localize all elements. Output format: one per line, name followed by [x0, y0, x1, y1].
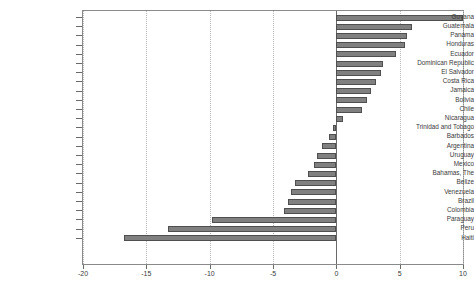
category-tick: [76, 91, 82, 92]
category-label: Belize: [396, 179, 474, 185]
category-tick: [76, 81, 82, 82]
category-label: Haiti: [396, 235, 474, 241]
bar-ecuador: [336, 51, 396, 57]
category-label: El Salvador: [396, 69, 474, 75]
category-label: Bahamas, The: [396, 170, 474, 176]
bar-haiti: [124, 235, 337, 241]
category-tick: [76, 183, 82, 184]
category-tick: [76, 155, 82, 156]
value-tick-label: -20: [78, 270, 88, 277]
bar-belize: [295, 180, 337, 186]
category-tick: [76, 146, 82, 147]
category-label: Ecuador: [396, 51, 474, 57]
category-tick: [76, 219, 82, 220]
category-label: Bolivia: [396, 97, 474, 103]
bar-jamaica: [336, 88, 370, 94]
category-label: Panama: [396, 32, 474, 38]
category-tick: [76, 17, 82, 18]
category-tick: [76, 45, 82, 46]
category-label: Costa Rica: [396, 78, 474, 84]
category-tick: [76, 173, 82, 174]
category-label: Chile: [396, 106, 474, 112]
bar-trinidad-and-tobago: [333, 125, 337, 131]
category-tick: [76, 109, 82, 110]
value-tick-label: -10: [205, 270, 215, 277]
bar-argentina: [322, 143, 336, 149]
category-label: Dominican Republic: [396, 60, 474, 66]
category-tick: [76, 192, 82, 193]
value-tick-mark: [83, 265, 84, 269]
category-label: Paraguay: [396, 216, 474, 222]
category-tick: [76, 201, 82, 202]
bar-venezuela: [291, 189, 337, 195]
category-label: Colombia: [396, 207, 474, 213]
category-label: Barbados: [396, 133, 474, 139]
value-tick-label: -15: [141, 270, 151, 277]
category-tick: [76, 137, 82, 138]
category-label: Guatemala: [396, 23, 474, 29]
category-label: Argentina: [396, 143, 474, 149]
category-label: Guyana: [396, 14, 474, 20]
bar-bahamas-the: [308, 171, 336, 177]
bar-brazil: [288, 199, 336, 205]
bar-colombia: [284, 208, 336, 214]
value-tick-mark: [146, 265, 147, 269]
category-tick: [76, 54, 82, 55]
category-label: Nicaragua: [396, 115, 474, 121]
value-tick-mark: [273, 265, 274, 269]
category-tick: [76, 238, 82, 239]
bar-el-salvador: [336, 70, 380, 76]
bar-paraguay: [212, 217, 336, 223]
value-tick-label: 5: [398, 270, 402, 277]
value-tick-label: 0: [334, 270, 338, 277]
category-tick: [76, 210, 82, 211]
horizontal-bar-chart: GuyanaGuatemalaPanamaHondurasEcuadorDomi…: [0, 0, 474, 299]
category-label: Venezuela: [396, 189, 474, 195]
value-tick-mark: [463, 265, 464, 269]
bar-barbados: [329, 134, 337, 140]
bar-costa-rica: [336, 79, 375, 85]
bar-dominican-republic: [336, 61, 383, 67]
category-label: Uruguay: [396, 152, 474, 158]
category-label: Mexico: [396, 161, 474, 167]
category-tick: [76, 127, 82, 128]
bar-chile: [336, 107, 361, 113]
category-label: Trinidad and Tobago: [396, 124, 474, 130]
category-label: Honduras: [396, 41, 474, 47]
value-tick-mark: [336, 265, 337, 269]
category-label: Brazil: [396, 198, 474, 204]
category-tick: [76, 35, 82, 36]
bar-honduras: [336, 42, 404, 48]
category-tick: [76, 72, 82, 73]
value-tick-label: 10: [459, 270, 467, 277]
value-tick-label: -5: [270, 270, 276, 277]
bar-bolivia: [336, 97, 366, 103]
value-tick-mark: [400, 265, 401, 269]
category-tick: [76, 118, 82, 119]
bar-mexico: [314, 162, 337, 168]
bar-uruguay: [317, 153, 336, 159]
value-tick-mark: [210, 265, 211, 269]
category-tick: [76, 63, 82, 64]
category-label: Peru: [396, 225, 474, 231]
category-tick: [76, 229, 82, 230]
category-label: Jamaica: [396, 87, 474, 93]
category-tick: [76, 164, 82, 165]
category-tick: [76, 100, 82, 101]
bar-nicaragua: [336, 116, 342, 122]
category-tick: [76, 26, 82, 27]
bar-peru: [168, 226, 336, 232]
